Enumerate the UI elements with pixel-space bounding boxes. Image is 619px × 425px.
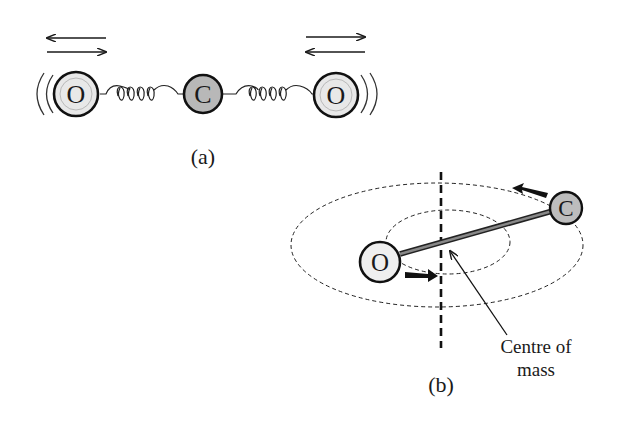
annotation-line-1: Centre of [500,336,572,357]
atom-symbol: O [67,80,86,109]
motion-arrow-icon [512,183,548,198]
vibration-arc-icon [47,75,54,113]
atom-symbol: O [371,249,389,276]
panel-a: O C O (a) [37,37,377,169]
atom-symbol: C [558,196,573,221]
caption-b: (b) [428,372,454,397]
spring-icon [223,86,316,101]
atom-symbol: C [194,80,211,109]
motion-arrow-icon [405,269,438,282]
panel-b: O C Centre of mass (b) [291,172,583,397]
carbon-atom: C [184,75,222,113]
atom-symbol: O [327,81,346,110]
oxygen-atom-left: O [54,72,98,116]
carbon-atom: C [550,192,582,224]
spring-icon [100,86,184,101]
vibration-arc-icon [37,73,44,115]
caption-a: (a) [191,144,215,169]
oxygen-atom: O [360,242,400,282]
vibration-arc-icon [370,73,377,115]
oxygen-atom-right: O [314,73,358,117]
annotation-line-2: mass [517,359,555,380]
centre-of-mass-pointer [450,251,507,335]
vibration-arc-icon [361,75,368,113]
